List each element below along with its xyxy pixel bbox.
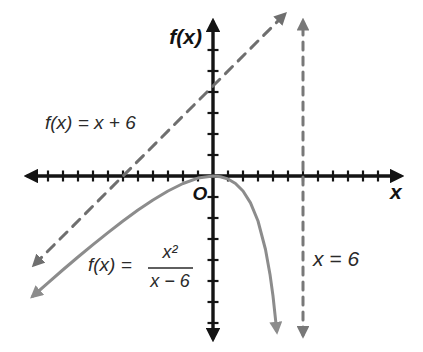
rational-equation-numerator: x² <box>162 242 179 262</box>
origin-label: O <box>193 183 208 204</box>
linear-equation-label: f(x) = x + 6 <box>45 112 136 133</box>
rational-equation-label: f(x) = x² x − 6 <box>88 242 193 291</box>
linear-function-line <box>35 15 285 265</box>
function-graph-figure: f(x) x O f(x) = x + 6 f(x) = x² x − 6 x … <box>0 0 423 352</box>
rational-equation-denominator: x − 6 <box>149 271 191 291</box>
x-axis-label: x <box>389 180 403 203</box>
rational-function-curve <box>33 176 277 331</box>
rational-equation-prefix: f(x) = <box>88 254 132 275</box>
asymptote-equation-label: x = 6 <box>312 247 359 270</box>
function-graph: f(x) x O f(x) = x + 6 f(x) = x² x − 6 x … <box>0 0 423 352</box>
axes <box>28 22 400 338</box>
y-axis-label: f(x) <box>169 25 202 48</box>
